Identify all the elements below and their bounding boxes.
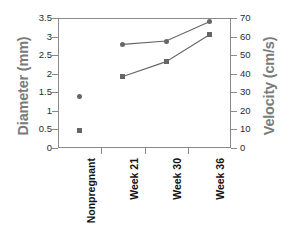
category-label: Week 36 xyxy=(214,158,226,200)
category-labels: NonpregnantWeek 21Week 30Week 36 xyxy=(0,0,284,244)
x-tick-mark xyxy=(188,148,189,154)
category-label: Week 21 xyxy=(128,158,140,200)
x-tick-mark xyxy=(101,148,102,154)
category-label: Nonpregnant xyxy=(85,158,97,223)
category-label: Week 30 xyxy=(171,158,183,200)
chart-figure: Diameter (mm) Velocity (cm/s) 00.511.522… xyxy=(0,0,284,244)
x-tick-mark xyxy=(145,148,146,154)
